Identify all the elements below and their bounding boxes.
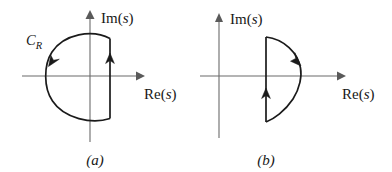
panel-b-real-axis-arrowhead bbox=[337, 72, 346, 81]
panel-a-real-axis bbox=[22, 72, 145, 81]
panel-b-caption: (b) bbox=[257, 152, 275, 169]
panel-a-imaginary-axis-label: Im(s) bbox=[101, 10, 134, 27]
panel-b-contour-direction-arrow-arc bbox=[291, 53, 302, 66]
panel-b-real-axis-label: Re(s) bbox=[342, 86, 375, 103]
panel-a-real-axis-label: Re(s) bbox=[144, 86, 177, 103]
panel-b-imaginary-axis-arrowhead bbox=[215, 13, 223, 22]
panel-b-real-axis bbox=[200, 72, 346, 81]
panel-a-caption: (a) bbox=[86, 152, 104, 169]
panel-a-imaginary-axis-arrowhead bbox=[86, 10, 95, 19]
panel-b-contour-curve bbox=[262, 37, 301, 122]
panel-a-real-axis-arrowhead bbox=[136, 72, 145, 81]
panel-a-contour-diagram: CR Im(s) Re(s) (a) bbox=[0, 0, 196, 172]
panel-a-contour-curve bbox=[46, 34, 115, 121]
panel-a-contour-label: CR bbox=[26, 32, 43, 51]
figure-root: CR Im(s) Re(s) (a) bbox=[0, 0, 392, 172]
panel-b-contour-arc bbox=[266, 37, 301, 122]
panel-b-imaginary-axis-label: Im(s) bbox=[230, 11, 263, 28]
panel-b-contour-diagram: Im(s) Re(s) (b) bbox=[196, 0, 392, 172]
panel-a-contour-arc bbox=[46, 34, 110, 121]
